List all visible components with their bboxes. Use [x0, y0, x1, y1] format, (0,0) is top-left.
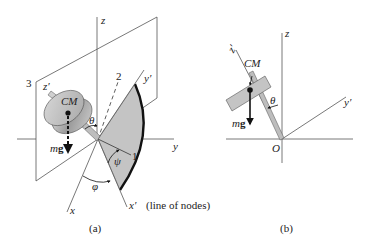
label-theta-b: θ	[270, 94, 276, 106]
cm-dot-b	[247, 87, 253, 93]
label-mg-b: mg	[232, 117, 246, 129]
label-cm: CM	[61, 95, 78, 107]
label-y-prime: y′	[143, 72, 152, 84]
shaded-sector	[98, 84, 144, 190]
label-psi: ψ	[114, 155, 121, 167]
label-z-prime-b: z′	[224, 42, 239, 55]
y-prime-axis-b	[282, 97, 346, 139]
label-origin-b: O	[272, 142, 280, 154]
label-mg: mg	[50, 142, 64, 154]
figure-b: z z′ y′ O CM θ mg (b)	[224, 27, 353, 235]
label-z: z	[100, 14, 106, 26]
label-axis-3: 3	[26, 77, 32, 89]
figure-canvas: z y x y′ x′ (line of nodes) 1 2 3 z′ CM …	[0, 0, 368, 246]
label-theta: θ	[89, 114, 95, 126]
caption-a: (a)	[89, 222, 102, 235]
label-axis-1: 1	[132, 150, 138, 162]
figure-a: z y x y′ x′ (line of nodes) 1 2 3 z′ CM …	[17, 14, 210, 235]
label-x: x	[69, 204, 75, 216]
label-x-prime: x′	[128, 199, 137, 211]
label-y: y	[172, 140, 178, 152]
label-z-b: z	[284, 27, 290, 39]
label-axis-2: 2	[116, 70, 122, 82]
label-y-prime-b: y′	[343, 96, 352, 108]
label-cm-b: CM	[244, 57, 261, 69]
cm-dot	[65, 110, 70, 115]
label-z-prime: z′	[42, 80, 50, 92]
label-phi: φ	[92, 180, 98, 192]
label-line-of-nodes: (line of nodes)	[146, 199, 210, 212]
caption-b: (b)	[280, 222, 293, 235]
